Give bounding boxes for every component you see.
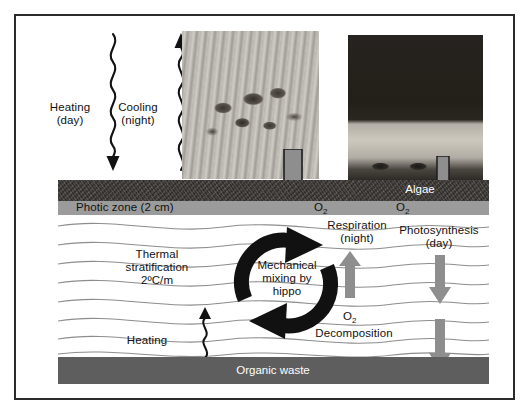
figure-frame: Heating (day) Cooling (night) Algae Ph <box>14 14 515 400</box>
thermal-stratification-label: Thermal stratification 2ºC/m <box>102 248 212 287</box>
photosynthesis-arrow <box>428 255 452 305</box>
photic-zone-layer: Photic zone (2 cm) O2 O2 <box>58 201 489 215</box>
deep-heating-squiggle-arrow <box>194 307 216 357</box>
decomposition-arrow <box>428 319 452 357</box>
photo-algae-on-shore <box>348 35 483 181</box>
figure-canvas: Heating (day) Cooling (night) Algae Ph <box>0 0 529 420</box>
photosynthesis-label: Photosynthesis (day) <box>388 224 489 250</box>
organic-waste-layer: Organic waste <box>58 357 489 384</box>
cooling-night-label: Cooling (night) <box>108 101 168 127</box>
decomposition-label: Decomposition <box>300 327 408 340</box>
algae-layer: Algae <box>58 180 489 201</box>
respiration-arrow <box>338 251 362 299</box>
organic-waste-label: Organic waste <box>218 364 328 377</box>
photic-zone-label: Photic zone (2 cm) <box>76 201 226 214</box>
deep-heating-label: Heating <box>108 334 186 347</box>
water-column: Thermal stratification 2ºC/m Heating Mec… <box>58 215 489 357</box>
oxygen-surface-right-label: O2 <box>396 201 409 216</box>
oxygen-deep-label: O2 <box>343 310 356 325</box>
mechanical-mixing-label: Mechanical mixing by hippo <box>239 259 335 298</box>
oxygen-surface-left-label: O2 <box>314 201 327 216</box>
heating-day-label: Heating (day) <box>40 101 100 127</box>
algae-label: Algae <box>390 183 450 196</box>
